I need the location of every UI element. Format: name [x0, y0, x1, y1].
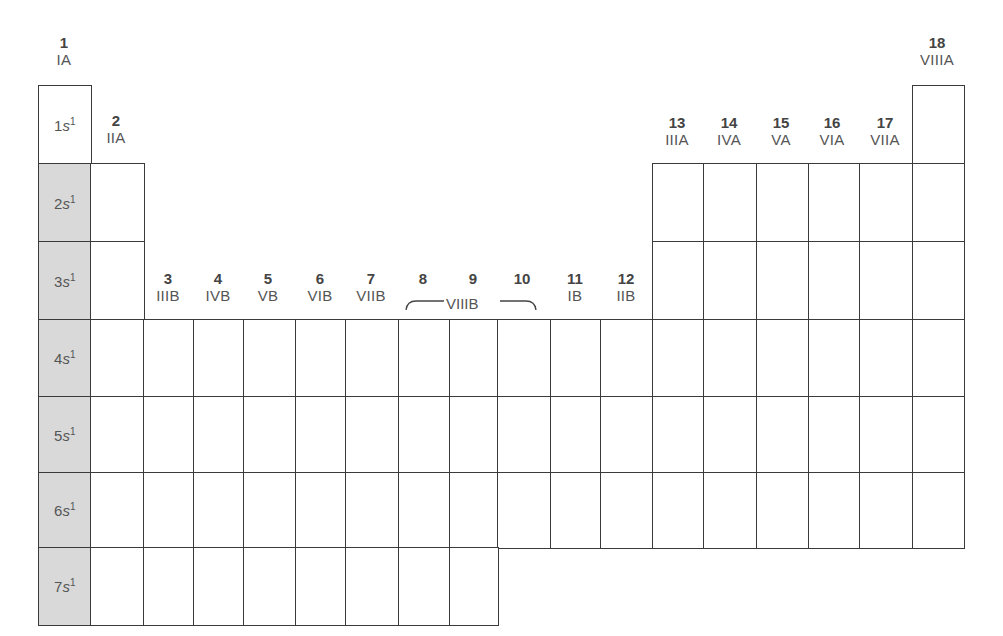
- cell-period3-group17: [859, 241, 914, 321]
- cell-period2-group18: [912, 163, 965, 243]
- cell-period2-group13: [652, 163, 705, 243]
- group-number: 5: [238, 270, 298, 287]
- cell-period4-group12: [600, 319, 654, 398]
- cell-period2-group14: [703, 163, 758, 243]
- group-roman-label: VIIB: [341, 287, 401, 304]
- cell-period4-group8: [398, 319, 451, 398]
- cell-period4-group4: [193, 319, 245, 398]
- cell-period5-group6: [295, 396, 347, 474]
- group-header-12: 12IIB: [596, 270, 656, 304]
- cell-period2-group16: [808, 163, 861, 243]
- cell-period4-group3: [143, 319, 195, 398]
- cell-period7-group4: [193, 547, 245, 626]
- cell-period6-group16: [808, 472, 861, 549]
- cell-period5-group5: [243, 396, 297, 474]
- cell-period7-group9: [449, 547, 499, 626]
- cell-period4-group7: [345, 319, 400, 398]
- cell-period5-group7: [345, 396, 400, 474]
- cell-period4-group2: [90, 319, 145, 398]
- cell-period6-group2: [90, 472, 145, 549]
- group-header-18: 18VIIIA: [907, 34, 967, 68]
- group-number: 13: [647, 114, 707, 131]
- electron-configuration-label: 7s1: [39, 577, 91, 595]
- group-roman-label: VIA: [802, 131, 862, 148]
- cell-period4-group13: [652, 319, 705, 398]
- cell-period7-group1: 7s1: [38, 547, 92, 626]
- cell-period4-group10: [497, 319, 552, 398]
- cell-period6-group17: [859, 472, 914, 549]
- group-header-7: 7VIIB: [341, 270, 401, 304]
- cell-period2-group1: 2s1: [38, 163, 92, 243]
- cell-period5-group16: [808, 396, 861, 474]
- cell-period1-group18: [912, 85, 965, 165]
- cell-period3-group14: [703, 241, 758, 321]
- cell-period6-group8: [398, 472, 451, 549]
- group-roman-label: IIB: [596, 287, 656, 304]
- cell-period6-group4: [193, 472, 245, 549]
- group-header-14: 14IVA: [699, 114, 759, 148]
- group-header-13: 13IIIA: [647, 114, 707, 148]
- group-number: 12: [596, 270, 656, 287]
- group-header-2: 2IIA: [86, 112, 146, 146]
- group-number: 18: [907, 34, 967, 51]
- group-header-10: 10: [492, 270, 552, 287]
- group-header-5: 5VB: [238, 270, 298, 304]
- group-header-17: 17VIIA: [855, 114, 915, 148]
- cell-period5-group13: [652, 396, 705, 474]
- cell-period6-group9: [449, 472, 499, 549]
- cell-period5-group14: [703, 396, 758, 474]
- cell-period3-group1: 3s1: [38, 241, 92, 321]
- group-roman-label: IIIA: [647, 131, 707, 148]
- cell-period6-group18: [912, 472, 965, 549]
- cell-period6-group5: [243, 472, 297, 549]
- cell-period5-group3: [143, 396, 195, 474]
- cell-period5-group18: [912, 396, 965, 474]
- cell-period6-group11: [550, 472, 602, 549]
- cell-period2-group2: [90, 163, 145, 243]
- electron-configuration-label: 3s1: [39, 272, 91, 290]
- cell-period3-group15: [756, 241, 810, 321]
- cell-period3-group16: [808, 241, 861, 321]
- cell-period1-group1: 1s1: [38, 85, 92, 165]
- cell-period6-group7: [345, 472, 400, 549]
- electron-configuration-label: 6s1: [39, 501, 91, 519]
- cell-period5-group1: 5s1: [38, 396, 92, 474]
- cell-period2-group17: [859, 163, 914, 243]
- cell-period4-group14: [703, 319, 758, 398]
- cell-period7-group8: [398, 547, 451, 626]
- cell-period2-group15: [756, 163, 810, 243]
- cell-period6-group6: [295, 472, 347, 549]
- cell-period4-group17: [859, 319, 914, 398]
- group-number: 10: [492, 270, 552, 287]
- cell-period6-group3: [143, 472, 195, 549]
- cell-period5-group17: [859, 396, 914, 474]
- cell-period5-group11: [550, 396, 602, 474]
- cell-period4-group6: [295, 319, 347, 398]
- group-viiib-label: VIIIB: [446, 295, 479, 312]
- electron-configuration-label: 4s1: [39, 349, 91, 367]
- group-number: 7: [341, 270, 401, 287]
- group-number: 17: [855, 114, 915, 131]
- electron-configuration-label: 2s1: [39, 194, 91, 212]
- group-roman-label: IIA: [86, 129, 146, 146]
- cell-period5-group4: [193, 396, 245, 474]
- group-roman-label: IA: [34, 51, 94, 68]
- cell-period4-group16: [808, 319, 861, 398]
- group-header-1: 1IA: [34, 34, 94, 68]
- cell-period7-group6: [295, 547, 347, 626]
- group-number: 2: [86, 112, 146, 129]
- cell-period6-group12: [600, 472, 654, 549]
- cell-period4-group5: [243, 319, 297, 398]
- cell-period5-group2: [90, 396, 145, 474]
- group-roman-label: IVA: [699, 131, 759, 148]
- cell-period6-group13: [652, 472, 705, 549]
- cell-period4-group15: [756, 319, 810, 398]
- cell-period7-group2: [90, 547, 145, 626]
- cell-period6-group15: [756, 472, 810, 549]
- cell-period3-group13: [652, 241, 705, 321]
- electron-configuration-label: 1s1: [39, 116, 91, 134]
- cell-period7-group5: [243, 547, 297, 626]
- group-roman-label: VB: [238, 287, 298, 304]
- cell-period7-group7: [345, 547, 400, 626]
- cell-period4-group1: 4s1: [38, 319, 92, 398]
